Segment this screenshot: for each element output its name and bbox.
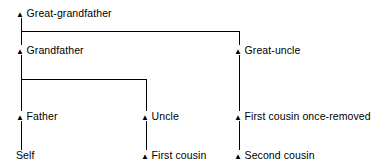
triangle-marker-icon: ▲ [16,46,24,58]
connector-father-to-self [21,121,22,150]
triangle-marker-icon: ▲ [16,9,24,21]
connector-grandfather-to-father [21,79,22,111]
node-first-cousin-once-removed: ▲First cousin once-removed [234,110,371,124]
triangle-marker-icon: ▲ [234,46,242,58]
connector-grandfather-trunk [21,55,22,80]
node-first-cousin: ▲First cousin [141,149,206,163]
node-label: Father [27,110,58,122]
connector-firstcousinonceremoved-to-secondcousin [239,121,240,150]
connector-grandfather-to-uncle [146,79,147,111]
node-label: Grandfather [27,44,84,56]
node-second-cousin: ▲Second cousin [234,149,315,163]
node-uncle: ▲Uncle [141,110,179,124]
node-father: ▲Father [16,110,57,124]
triangle-marker-icon: ▲ [141,151,149,163]
node-label: Self [16,149,35,161]
node-label: First cousin once-removed [245,110,371,122]
connector-greatuncle-to-firstcousinonceremoved [239,55,240,111]
triangle-marker-icon: ▲ [16,112,24,124]
connector-uncle-to-firstcousin [146,121,147,150]
node-label: Uncle [152,110,179,122]
node-self: Self [16,149,35,161]
triangle-marker-icon: ▲ [234,151,242,163]
node-great-uncle: ▲Great-uncle [234,44,301,58]
connector-greatgrandfather-to-greatuncle [239,31,240,45]
triangle-marker-icon: ▲ [141,112,149,124]
connector-grandfather-branch-bar [21,79,147,80]
node-label: Second cousin [245,149,315,161]
node-grandfather: ▲Grandfather [16,44,84,58]
node-label: Great-uncle [245,44,301,56]
node-label: Great-grandfather [27,7,112,19]
family-tree-diagram: ▲Great-grandfather ▲Grandfather ▲Great-u… [0,0,378,166]
node-great-grandfather: ▲Great-grandfather [16,7,112,21]
triangle-marker-icon: ▲ [234,112,242,124]
connector-greatgrandfather-branch-bar [21,31,240,32]
node-label: First cousin [152,149,207,161]
connector-greatgrandfather-to-grandfather [21,31,22,45]
